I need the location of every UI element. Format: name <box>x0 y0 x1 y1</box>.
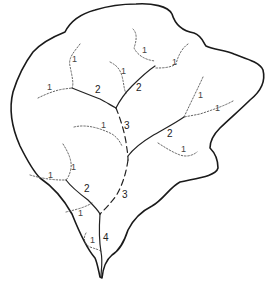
stream-label: 1 <box>142 45 147 55</box>
stream-label: 1 <box>72 54 77 64</box>
stream-label: 1 <box>48 170 53 180</box>
stream-label: 1 <box>172 57 177 67</box>
drainage-basin-diagram: 1 1 1 1 1 1 1 1 1 1 1 1 1 2 2 2 2 3 3 4 <box>0 0 270 284</box>
stream-order-4 <box>99 214 102 277</box>
stream-label: 4 <box>103 232 109 243</box>
stream-label: 1 <box>101 120 106 130</box>
stream-order-1 <box>184 101 233 117</box>
stream-label: 1 <box>78 208 83 218</box>
stream-order-3 <box>100 160 128 214</box>
stream-label: 3 <box>122 189 128 200</box>
stream-order-3 <box>116 108 128 160</box>
stream-order-1 <box>74 126 122 146</box>
stream-label: 1 <box>71 162 76 172</box>
stream-order-1 <box>63 144 71 180</box>
stream-label: 1 <box>181 144 186 154</box>
stream-label: 3 <box>124 120 130 131</box>
stream-order-2 <box>72 88 116 108</box>
stream-label: 1 <box>121 66 126 76</box>
stream-order-1 <box>70 44 80 88</box>
stream-label: 2 <box>136 82 142 93</box>
stream-label: 2 <box>167 128 173 139</box>
stream-label: 1 <box>47 82 52 92</box>
basin-boundary <box>11 4 264 278</box>
stream-order-2 <box>128 117 184 156</box>
stream-order-1 <box>158 143 197 156</box>
stream-label: 1 <box>215 103 220 113</box>
stream-label: 1 <box>90 235 95 245</box>
stream-label: 2 <box>84 183 90 194</box>
stream-label: 2 <box>95 84 101 95</box>
stream-label: 1 <box>198 90 203 100</box>
stream-order-1 <box>38 88 72 98</box>
